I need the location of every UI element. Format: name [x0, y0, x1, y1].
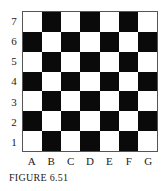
board-cell-g2	[138, 111, 157, 131]
board-cell-e6	[100, 32, 119, 52]
board-cell-f6	[119, 32, 138, 52]
column-label: E	[100, 154, 119, 168]
column-label: C	[61, 154, 80, 168]
column-label: F	[119, 154, 138, 168]
board-cell-c1	[61, 131, 80, 151]
figure-caption: FIGURE 6.51	[9, 172, 68, 183]
board-cell-f2	[119, 111, 138, 131]
board-cell-g7	[138, 12, 157, 32]
board-cell-a7	[23, 12, 42, 32]
column-label: D	[80, 154, 99, 168]
board-cell-c7	[61, 12, 80, 32]
board-cell-d7	[80, 12, 99, 32]
row-label: 6	[8, 31, 20, 51]
board-cell-g6	[138, 32, 157, 52]
row-label: 4	[8, 71, 20, 91]
column-label: A	[22, 154, 41, 168]
board-cell-e5	[100, 52, 119, 72]
board-cell-f5	[119, 52, 138, 72]
board-cell-a5	[23, 52, 42, 72]
board-cell-b3	[42, 91, 61, 111]
row-labels: 7654321	[8, 11, 20, 152]
board-cell-g3	[138, 91, 157, 111]
board-cell-d3	[80, 91, 99, 111]
board-cell-d4	[80, 72, 99, 92]
board-cell-f7	[119, 12, 138, 32]
row-label: 7	[8, 11, 20, 31]
board-cell-e1	[100, 131, 119, 151]
board-cell-c5	[61, 52, 80, 72]
column-label: B	[41, 154, 60, 168]
board-cell-a3	[23, 91, 42, 111]
board-cell-b1	[42, 131, 61, 151]
board-cell-b6	[42, 32, 61, 52]
board-cell-f1	[119, 131, 138, 151]
board-cell-b2	[42, 111, 61, 131]
board-cell-b7	[42, 12, 61, 32]
row-label: 3	[8, 92, 20, 112]
column-label: G	[139, 154, 158, 168]
board-cell-g4	[138, 72, 157, 92]
board-cell-g1	[138, 131, 157, 151]
board-cell-e4	[100, 72, 119, 92]
board-cell-d2	[80, 111, 99, 131]
board-cell-d5	[80, 52, 99, 72]
board-cell-a6	[23, 32, 42, 52]
board-cell-c2	[61, 111, 80, 131]
board-cell-a1	[23, 131, 42, 151]
board-cell-c3	[61, 91, 80, 111]
row-label: 5	[8, 51, 20, 71]
board-cell-c4	[61, 72, 80, 92]
board-cell-e2	[100, 111, 119, 131]
board-cell-a2	[23, 111, 42, 131]
board-cell-e3	[100, 91, 119, 111]
board-cell-b5	[42, 52, 61, 72]
board-cell-g5	[138, 52, 157, 72]
row-label: 2	[8, 112, 20, 132]
board-cell-d1	[80, 131, 99, 151]
board-cell-d6	[80, 32, 99, 52]
board-cell-c6	[61, 32, 80, 52]
row-label: 1	[8, 132, 20, 152]
board-cell-e7	[100, 12, 119, 32]
board-cell-a4	[23, 72, 42, 92]
board-cell-f3	[119, 91, 138, 111]
board-cell-b4	[42, 72, 61, 92]
board-cell-f4	[119, 72, 138, 92]
checkerboard	[22, 11, 158, 152]
column-labels: ABCDEFG	[22, 154, 158, 168]
